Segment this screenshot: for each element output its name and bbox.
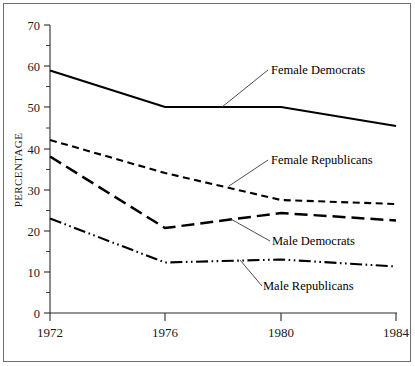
y-tick-label-30: 30 <box>28 184 41 198</box>
x-tick-label-1984: 1984 <box>383 325 410 340</box>
y-tick-label-10: 10 <box>28 266 41 280</box>
y-tick-label-50: 50 <box>28 101 41 115</box>
x-tick-label-1972: 1972 <box>37 325 63 340</box>
series-line-male-democrats <box>50 157 396 229</box>
leader-line-female-republicans <box>229 160 268 186</box>
line-chart: 70 60 50 40 30 20 10 0 1972 1976 1980 19… <box>0 0 415 366</box>
x-tick-label-1980: 1980 <box>268 325 294 340</box>
series-label-female-democrats: Female Democrats <box>271 63 365 77</box>
y-tick-label-40: 40 <box>28 143 41 157</box>
series-line-female-republicans <box>50 140 396 204</box>
chart-figure: 70 60 50 40 30 20 10 0 1972 1976 1980 19… <box>0 0 415 366</box>
series-label-female-republicans: Female Republicans <box>271 153 373 167</box>
series-label-male-republicans: Male Republicans <box>263 279 354 293</box>
leader-line-male-democrats <box>229 218 270 241</box>
y-axis-title: PERCENTAGE <box>12 133 24 208</box>
series-label-male-democrats: Male Democrats <box>272 234 355 248</box>
y-tick-label-20: 20 <box>28 225 41 239</box>
y-tick-label-70: 70 <box>28 19 41 33</box>
leader-line-female-democrats <box>222 70 268 107</box>
y-tick-label-60: 60 <box>28 60 41 74</box>
x-tick-label-1976: 1976 <box>152 325 179 340</box>
leader-line-male-republicans <box>240 260 262 286</box>
series-line-female-democrats <box>50 71 396 127</box>
y-tick-label-0: 0 <box>34 307 40 321</box>
y-axis-minor-ticks <box>46 46 50 293</box>
x-axis-ticks <box>50 313 396 321</box>
